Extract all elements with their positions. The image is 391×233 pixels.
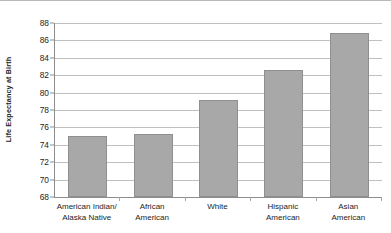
x-axis-category-label-line: American [316,213,381,224]
bar [330,33,369,197]
y-axis-tick-label: 84 [19,53,49,63]
x-axis-category-label-line: White [185,202,250,213]
x-axis-category-label-line: Hispanic [250,202,315,213]
y-axis-tick-label: 86 [19,35,49,45]
y-axis-tick-label: 78 [19,105,49,115]
x-axis-category-label: American Indian/Alaska Native [54,202,119,223]
x-axis-category-label-line: Asian [316,202,381,213]
plot-area [54,23,382,197]
bar [134,134,173,197]
y-axis-tick-label: 68 [19,192,49,202]
y-axis-tick-label: 74 [19,140,49,150]
chart-figure: Life Expectancy at Birth 888684828078767… [0,0,391,233]
y-axis-tick-label: 80 [19,88,49,98]
x-axis-tick-mark [316,197,317,201]
x-axis-line [54,197,381,198]
x-axis-category-label: AsianAmerican [316,202,381,223]
x-axis-category-label-line: American [119,213,184,224]
x-axis-category-label-line: African [119,202,184,213]
x-axis-category-label: HispanicAmerican [250,202,315,223]
y-axis-tick-labels: 8886848280787674727068 [18,1,54,233]
bar [264,70,303,197]
x-axis-category-label-line: American Indian/ [54,202,119,213]
y-axis-tick-label: 72 [19,157,49,167]
x-axis-tick-mark [185,197,186,201]
x-axis-tick-mark [381,197,382,201]
y-axis-tick-label: 88 [19,18,49,28]
gridline [55,23,382,24]
x-axis-category-label-line: Alaska Native [54,213,119,224]
bar [199,100,238,197]
y-axis-tick-label: 82 [19,70,49,80]
bar [68,136,107,197]
y-axis-tick-label: 76 [19,122,49,132]
x-axis-category-label-line: American [250,213,315,224]
x-axis-tick-mark [250,197,251,201]
x-axis-tick-mark [119,197,120,201]
x-axis-category-label: AfricanAmerican [119,202,184,223]
y-axis-title-text: Life Expectancy at Birth [5,56,14,141]
y-axis-tick-label: 70 [19,175,49,185]
y-axis-title: Life Expectancy at Birth [0,1,18,197]
x-axis-category-label: White [185,202,250,213]
